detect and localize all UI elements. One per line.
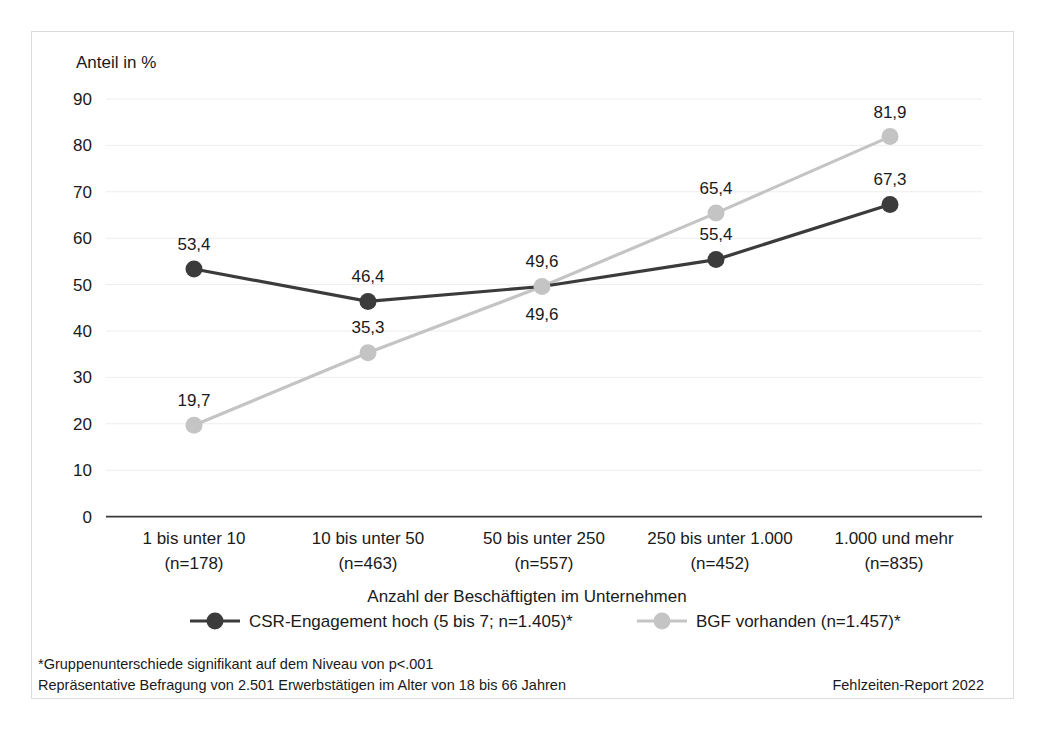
value-labels-csr: 53,4 46,4 49,6 55,4 67,3 <box>177 170 906 324</box>
y-axis-title: Anteil in % <box>76 53 156 72</box>
figure-frame: Anteil in % 90 80 70 60 50 40 30 20 10 <box>31 31 1014 699</box>
data-point-csr-0 <box>186 261 203 278</box>
x-category-label-1: 10 bis unter 50 <box>312 529 424 548</box>
line-chart: Anteil in % 90 80 70 60 50 40 30 20 10 <box>32 32 1013 698</box>
value-label-csr-4: 67,3 <box>873 170 906 189</box>
y-tick-label-30: 30 <box>73 368 92 387</box>
value-label-bgf-0: 19,7 <box>177 391 210 410</box>
legend: CSR-Engagement hoch (5 bis 7; n=1.405)* … <box>190 612 901 631</box>
data-point-csr-1 <box>360 293 377 310</box>
y-tick-label-60: 60 <box>73 229 92 248</box>
data-point-bgf-2 <box>534 278 551 295</box>
legend-marker-bgf <box>654 613 671 630</box>
x-category-sublabel-3: (n=452) <box>690 554 749 573</box>
y-tick-label-90: 90 <box>73 90 92 109</box>
legend-item-bgf[interactable]: BGF vorhanden (n=1.457)* <box>637 612 901 631</box>
data-point-bgf-1 <box>360 344 377 361</box>
y-tick-label-50: 50 <box>73 276 92 295</box>
x-category-label-3: 250 bis unter 1.000 <box>647 529 793 548</box>
value-label-csr-0: 53,4 <box>177 235 210 254</box>
data-point-bgf-4 <box>882 128 899 145</box>
x-axis-title: Anzahl der Beschäftigten im Unternehmen <box>367 587 686 606</box>
data-point-csr-4 <box>882 196 899 213</box>
x-category-label-0: 1 bis unter 10 <box>142 529 245 548</box>
value-label-csr-2: 49,6 <box>525 305 558 324</box>
y-tick-label-0: 0 <box>83 508 92 527</box>
x-category-label-4: 1.000 und mehr <box>834 529 953 548</box>
footnote-line-2: Repräsentative Befragung von 2.501 Erwer… <box>38 677 566 693</box>
x-category-sublabel-0: (n=178) <box>164 554 223 573</box>
data-point-csr-3 <box>708 251 725 268</box>
y-tick-label-40: 40 <box>73 322 92 341</box>
legend-label-bgf: BGF vorhanden (n=1.457)* <box>696 612 901 631</box>
x-category-sublabel-4: (n=835) <box>864 554 923 573</box>
value-label-bgf-3: 65,4 <box>699 179 732 198</box>
y-tick-label-70: 70 <box>73 183 92 202</box>
y-tick-label-80: 80 <box>73 136 92 155</box>
footnote-line-1: *Gruppenunterschiede signifikant auf dem… <box>38 656 433 672</box>
y-tick-label-20: 20 <box>73 415 92 434</box>
legend-item-csr[interactable]: CSR-Engagement hoch (5 bis 7; n=1.405)* <box>190 612 573 631</box>
data-point-bgf-0 <box>186 417 203 434</box>
x-category-sublabel-2: (n=557) <box>514 554 573 573</box>
legend-marker-csr <box>207 613 224 630</box>
value-label-bgf-4: 81,9 <box>873 103 906 122</box>
y-tick-labels: 90 80 70 60 50 40 30 20 10 0 <box>73 90 92 527</box>
value-label-bgf-2: 49,6 <box>525 252 558 271</box>
value-label-csr-1: 46,4 <box>351 267 384 286</box>
data-point-bgf-3 <box>708 205 725 222</box>
legend-label-csr: CSR-Engagement hoch (5 bis 7; n=1.405)* <box>249 612 573 631</box>
series-markers-bgf <box>186 128 899 434</box>
x-category-sublabel-1: (n=463) <box>338 554 397 573</box>
value-label-csr-3: 55,4 <box>699 225 732 244</box>
source-label: Fehlzeiten-Report 2022 <box>832 677 984 693</box>
x-category-labels: 1 bis unter 10 (n=178) 10 bis unter 50 (… <box>142 529 953 573</box>
value-label-bgf-1: 35,3 <box>351 318 384 337</box>
value-labels-bgf: 19,7 35,3 49,6 65,4 81,9 <box>177 103 906 410</box>
x-category-label-2: 50 bis unter 250 <box>483 529 605 548</box>
y-tick-label-10: 10 <box>73 461 92 480</box>
